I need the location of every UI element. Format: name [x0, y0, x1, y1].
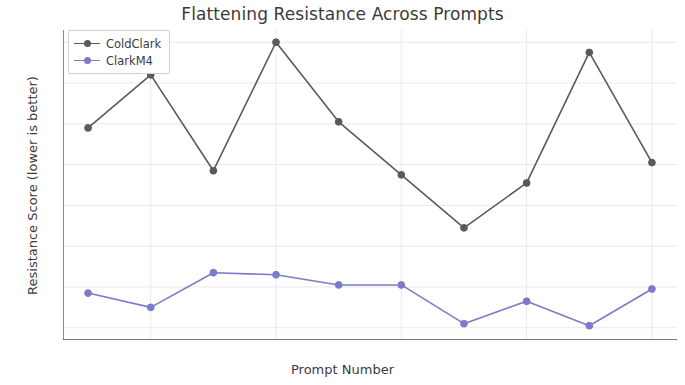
series-line-clarkm4 [88, 273, 652, 326]
legend: ColdClark ClarkM4 [68, 30, 170, 74]
y-axis-label: Resistance Score (lower is better) [25, 36, 40, 336]
legend-label-coldclark: ColdClark [106, 37, 161, 51]
legend-item-clarkm4[interactable]: ClarkM4 [74, 52, 161, 69]
data-point[interactable] [85, 124, 92, 131]
data-point[interactable] [523, 298, 530, 305]
data-point[interactable] [586, 49, 593, 56]
data-point[interactable] [398, 171, 405, 178]
legend-item-coldclark[interactable]: ColdClark [74, 35, 161, 52]
page-title: Flattening Resistance Across Prompts [0, 4, 685, 24]
data-point[interactable] [398, 282, 405, 289]
x-axis-label: Prompt Number [0, 362, 685, 377]
series-line-coldclark [88, 42, 652, 228]
data-point[interactable] [210, 167, 217, 174]
data-point[interactable] [335, 118, 342, 125]
data-point[interactable] [273, 39, 280, 46]
legend-swatch-coldclark [74, 38, 100, 50]
data-point[interactable] [461, 320, 468, 327]
data-point[interactable] [210, 269, 217, 276]
line-chart-svg: −20−30−40−50−60−70−80−90246810 [63, 30, 677, 340]
legend-label-clarkm4: ClarkM4 [106, 54, 153, 68]
chart-figure: Flattening Resistance Across Prompts Res… [0, 0, 685, 385]
data-point[interactable] [649, 159, 656, 166]
data-point[interactable] [523, 180, 530, 187]
data-point[interactable] [85, 290, 92, 297]
data-point[interactable] [335, 282, 342, 289]
data-point[interactable] [649, 286, 656, 293]
data-point[interactable] [273, 271, 280, 278]
legend-swatch-clarkm4 [74, 55, 100, 67]
data-point[interactable] [147, 304, 154, 311]
data-point[interactable] [586, 322, 593, 329]
plot-area: −20−30−40−50−60−70−80−90246810 [63, 30, 677, 340]
data-point[interactable] [461, 224, 468, 231]
